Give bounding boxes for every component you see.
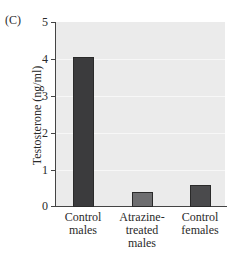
bar-control-males bbox=[73, 57, 94, 207]
y-tick bbox=[51, 59, 55, 60]
y-tick-label: 5 bbox=[28, 16, 48, 28]
category-line: females bbox=[165, 224, 235, 237]
y-tick bbox=[51, 96, 55, 97]
y-axis-label: Testosterone (ng/ml) bbox=[30, 61, 45, 171]
y-tick bbox=[51, 133, 55, 134]
panel-label: (C) bbox=[5, 13, 21, 28]
y-tick bbox=[51, 22, 55, 23]
bar-control-females bbox=[190, 185, 211, 207]
category-line: males bbox=[107, 237, 177, 250]
y-axis bbox=[55, 22, 56, 207]
y-tick bbox=[51, 170, 55, 171]
y-tick bbox=[51, 206, 55, 207]
y-tick-label: 0 bbox=[28, 200, 48, 212]
category-label-control-females: Control females bbox=[165, 211, 235, 237]
bar-atrazine-treated-males bbox=[132, 192, 153, 207]
